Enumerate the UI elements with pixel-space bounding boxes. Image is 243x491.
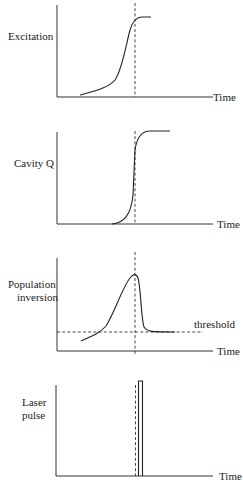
laser-pulse-label-line2: pulse xyxy=(22,409,45,421)
population-inversion-label-line1: Population xyxy=(8,278,56,290)
q-switch-timing-diagram: Excitation Time Cavity Q Time Population… xyxy=(0,0,243,491)
laser-pulse-label-line1: Laser xyxy=(22,396,47,408)
time-axis-label: Time xyxy=(217,218,240,230)
panel-cavity-q: Cavity Q Time xyxy=(14,131,240,230)
time-axis-label: Time xyxy=(219,470,242,482)
cavity-q-curve xyxy=(112,131,170,224)
panel-population-inversion: Population inversion Time threshold xyxy=(8,252,240,357)
excitation-label: Excitation xyxy=(8,30,54,42)
population-inversion-curve xyxy=(81,275,175,341)
cavity-q-label: Cavity Q xyxy=(14,157,54,169)
time-axis-label: Time xyxy=(213,91,236,103)
threshold-label: threshold xyxy=(194,318,235,330)
laser-pulse-curve xyxy=(139,381,143,476)
panel-laser-pulse: Laser pulse Time xyxy=(22,381,242,482)
excitation-curve xyxy=(80,17,151,95)
time-axis-label: Time xyxy=(217,345,240,357)
panel-excitation: Excitation Time xyxy=(8,3,236,103)
population-inversion-label-line2: inversion xyxy=(17,291,58,303)
